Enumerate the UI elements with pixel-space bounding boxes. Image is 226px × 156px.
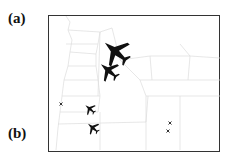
airplane-icon-small [82, 101, 99, 118]
map-overlay [0, 0, 226, 156]
airplane-icon-small [84, 119, 102, 137]
county-boundaries [56, 16, 220, 150]
x-mark-icons [60, 103, 172, 133]
